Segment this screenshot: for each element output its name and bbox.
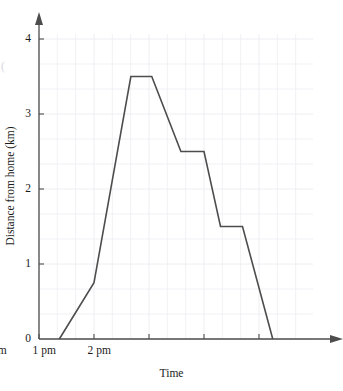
x-tick-label-4: 2 pm (88, 345, 111, 357)
grid-minor (39, 34, 313, 339)
line-chart: Distance from home (km) 10 am11 am12 pm1… (0, 0, 343, 391)
y-tick-label-1: 1 (0, 258, 31, 270)
edge-artifact-glyph: ( (1, 60, 5, 72)
x-axis-title: Time (0, 367, 343, 379)
grid-major (39, 34, 313, 339)
y-tick-label-2: 2 (0, 183, 31, 195)
x-tick-label-3: 1 pm (33, 345, 56, 357)
y-tick-label-4: 4 (0, 33, 31, 45)
chart-plot-area: Distance from home (km) (0, 0, 343, 391)
y-tick-label-0: 0 (0, 333, 31, 345)
x-tick-label-2: 12 pm (0, 345, 7, 357)
y-tick-label-3: 3 (0, 108, 31, 120)
axis-lines (35, 12, 343, 343)
